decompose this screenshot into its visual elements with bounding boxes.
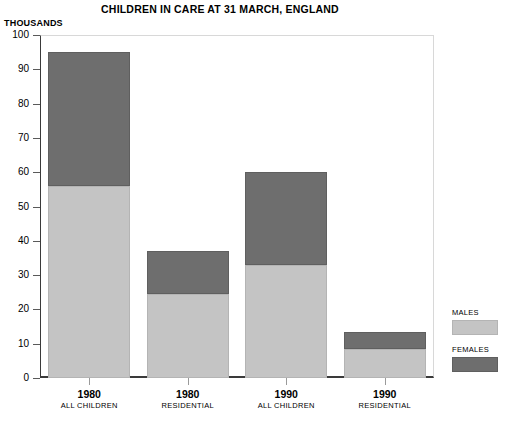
y-axis-tick-label: 60: [0, 167, 29, 177]
x-axis-tick: [89, 378, 90, 385]
x-axis-year-label: 1980: [40, 388, 139, 400]
x-axis-label-group: 1980ALL CHILDREN: [40, 388, 139, 411]
legend-label: MALES: [452, 308, 504, 318]
y-axis-tick: [33, 378, 40, 379]
legend-entry-males[interactable]: MALES: [452, 308, 504, 335]
x-axis-year-label: 1990: [237, 388, 336, 400]
y-axis-tick-label: 50: [0, 202, 29, 212]
y-axis-tick-label: 20: [0, 304, 29, 314]
bar-stack[interactable]: [245, 35, 327, 378]
y-axis-tick-label: 10: [0, 339, 29, 349]
y-axis-tick-label: 0: [0, 373, 29, 383]
x-axis-sublabel: RESIDENTIAL: [139, 400, 238, 411]
bar-segment-females[interactable]: [245, 172, 327, 265]
x-axis-label-group: 1990RESIDENTIAL: [336, 388, 435, 411]
y-axis-tick-label: 40: [0, 236, 29, 246]
bar-segment-females[interactable]: [48, 52, 130, 186]
y-axis-tick: [33, 309, 40, 310]
x-axis-sublabel: RESIDENTIAL: [336, 400, 435, 411]
chart-legend: MALESFEMALES: [452, 308, 504, 382]
y-axis-tick-label: 100: [0, 30, 29, 40]
bar-segment-females[interactable]: [344, 332, 426, 349]
y-axis-tick: [33, 35, 40, 36]
y-axis-tick: [33, 69, 40, 70]
legend-entry-females[interactable]: FEMALES: [452, 345, 504, 372]
legend-swatch-males: [452, 320, 498, 335]
y-axis-tick: [33, 275, 40, 276]
y-axis-tick: [33, 172, 40, 173]
y-axis-tick: [33, 138, 40, 139]
y-axis-tick-label: 90: [0, 64, 29, 74]
y-axis-tick: [33, 207, 40, 208]
bar-stack[interactable]: [344, 35, 426, 378]
y-axis-tick-label: 80: [0, 99, 29, 109]
bar-segment-males[interactable]: [147, 294, 229, 378]
bar-segment-females[interactable]: [147, 251, 229, 294]
y-axis-tick-label: 70: [0, 133, 29, 143]
x-axis-tick: [188, 378, 189, 385]
y-axis-tick-label: 30: [0, 270, 29, 280]
y-axis-tick: [33, 241, 40, 242]
legend-label: FEMALES: [452, 345, 504, 355]
x-axis-sublabel: ALL CHILDREN: [40, 400, 139, 411]
chart-title: CHILDREN IN CARE AT 31 MARCH, ENGLAND: [0, 3, 440, 15]
y-axis-tick: [33, 344, 40, 345]
chart-container: CHILDREN IN CARE AT 31 MARCH, ENGLAND TH…: [0, 0, 508, 428]
x-axis-year-label: 1980: [139, 388, 238, 400]
x-axis-tick: [385, 378, 386, 385]
x-axis-label-group: 1980RESIDENTIAL: [139, 388, 238, 411]
legend-swatch-females: [452, 357, 498, 372]
y-axis-units-label: THOUSANDS: [4, 18, 63, 28]
x-axis-label-group: 1990ALL CHILDREN: [237, 388, 336, 411]
bar-segment-males[interactable]: [48, 186, 130, 378]
bar-segment-males[interactable]: [344, 349, 426, 378]
y-axis-tick: [33, 104, 40, 105]
x-axis-tick: [286, 378, 287, 385]
bar-segment-males[interactable]: [245, 265, 327, 378]
x-axis-sublabel: ALL CHILDREN: [237, 400, 336, 411]
bar-stack[interactable]: [147, 35, 229, 378]
bar-stack[interactable]: [48, 35, 130, 378]
x-axis-year-label: 1990: [336, 388, 435, 400]
